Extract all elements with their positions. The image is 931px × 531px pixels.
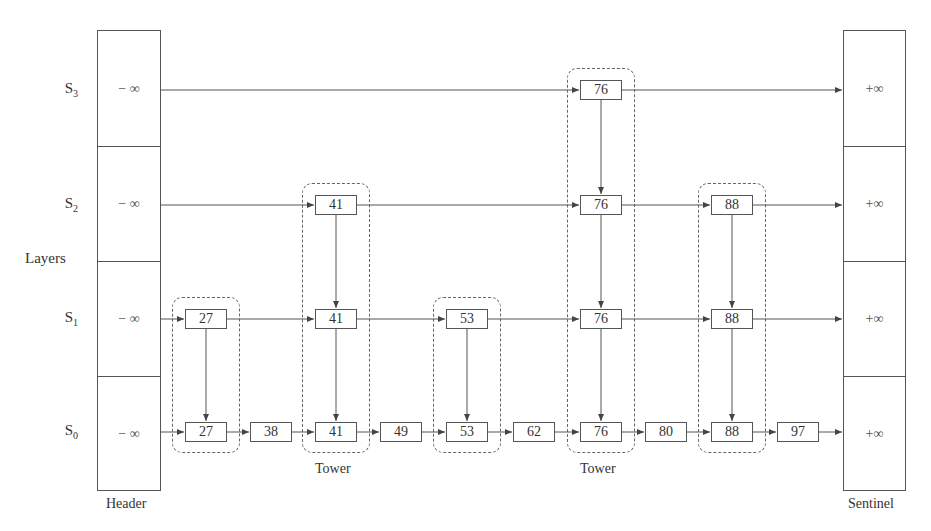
node-76-s1: 76 xyxy=(580,309,622,329)
layer-label-s1: S1 xyxy=(38,309,78,328)
tower-label: Tower xyxy=(580,461,616,477)
neg-infinity: − ∞ xyxy=(118,426,139,442)
node-76-s0: 76 xyxy=(580,422,622,442)
node-88-s2: 88 xyxy=(711,195,753,215)
layer-label-s2: S2 xyxy=(38,195,78,214)
sentinel-cell-s1: +∞ xyxy=(844,261,905,376)
sentinel-cell-s0: +∞ xyxy=(844,376,905,491)
header-cell-s3: − ∞ xyxy=(98,31,160,146)
header-column: − ∞ − ∞ − ∞ − ∞ xyxy=(97,30,161,491)
node-41-s1: 41 xyxy=(315,309,357,329)
header-label: Header xyxy=(106,496,146,512)
node-38-s0: 38 xyxy=(250,422,292,442)
neg-infinity: − ∞ xyxy=(118,311,139,327)
node-88-s1: 88 xyxy=(711,309,753,329)
node-97-s0: 97 xyxy=(777,422,819,442)
sentinel-cell-s3: +∞ xyxy=(844,31,905,146)
tower-76 xyxy=(567,68,635,453)
node-88-s0: 88 xyxy=(711,422,753,442)
node-62-s0: 62 xyxy=(513,422,555,442)
skip-list-diagram: − ∞ − ∞ − ∞ − ∞ Header +∞ +∞ +∞ +∞ Senti… xyxy=(0,0,931,531)
node-27-s1: 27 xyxy=(185,309,227,329)
header-cell-s2: − ∞ xyxy=(98,146,160,261)
neg-infinity: − ∞ xyxy=(118,81,139,97)
node-53-s1: 53 xyxy=(446,309,488,329)
sentinel-column: +∞ +∞ +∞ +∞ xyxy=(843,30,906,491)
node-53-s0: 53 xyxy=(446,422,488,442)
neg-infinity: − ∞ xyxy=(118,196,139,212)
pos-infinity: +∞ xyxy=(866,196,884,212)
layers-label: Layers xyxy=(25,250,66,267)
sentinel-cell-s2: +∞ xyxy=(844,146,905,261)
node-27-s0: 27 xyxy=(185,422,227,442)
sentinel-label: Sentinel xyxy=(848,496,894,512)
tower-label: Tower xyxy=(315,461,351,477)
pos-infinity: +∞ xyxy=(866,426,884,442)
node-41-s2: 41 xyxy=(315,195,357,215)
node-41-s0: 41 xyxy=(315,422,357,442)
node-76-s2: 76 xyxy=(580,195,622,215)
layer-label-s3: S3 xyxy=(38,80,78,99)
header-cell-s1: − ∞ xyxy=(98,261,160,376)
layer-label-s0: S0 xyxy=(38,422,78,441)
node-49-s0: 49 xyxy=(380,422,422,442)
node-76-s3: 76 xyxy=(580,80,622,100)
pos-infinity: +∞ xyxy=(866,311,884,327)
pos-infinity: +∞ xyxy=(866,81,884,97)
header-cell-s0: − ∞ xyxy=(98,376,160,491)
node-80-s0: 80 xyxy=(645,422,687,442)
